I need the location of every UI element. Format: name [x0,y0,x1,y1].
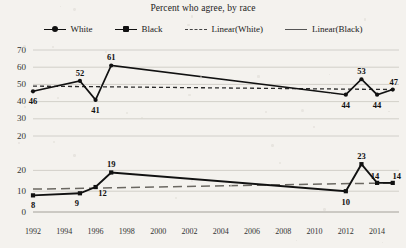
legend-item-white: White [44,24,93,34]
data-point-label: 47 [384,78,404,87]
scan-speckle [105,51,107,53]
data-point-label: 44 [367,101,387,110]
data-point-label: 12 [93,189,113,198]
data-point-label: 61 [101,53,121,62]
scan-speckle [52,46,54,48]
scan-speckle [191,180,192,181]
square-line-marker-icon [115,25,137,34]
y-axis-tick-label: 20 [4,132,26,141]
x-axis-tick-label: 2004 [207,228,235,236]
scan-speckle [323,208,326,211]
diamond-line-marker-icon [44,25,66,34]
x-axis-tick-label: 2006 [238,228,266,236]
legend-label-linear-black: Linear(Black) [312,24,362,34]
chart-legend: White Black Linear(White) Linear(Black) [0,22,406,36]
data-point-label: 53 [351,67,371,76]
scan-speckle [188,94,191,97]
x-axis-tick-label: 1996 [82,228,110,236]
x-axis-tick-label: 2014 [363,228,391,236]
data-point-label: 8 [23,201,43,210]
data-point-label: 10 [336,198,356,207]
scan-speckle [382,242,383,243]
scan-speckle [60,6,61,7]
scan-speckle [18,142,19,143]
scan-speckle [271,144,274,147]
scan-speckle [73,154,76,157]
scan-speckle [23,45,26,48]
scan-speckle [273,232,274,233]
scan-speckle [191,15,193,17]
legend-item-black: Black [115,24,163,34]
legend-label-linear-white: Linear(White) [212,24,263,34]
x-axis-tick-label: 2010 [301,228,329,236]
x-axis-tick-label: 1994 [50,228,78,236]
data-point-label: 14 [387,172,406,181]
data-point-label: 44 [336,101,356,110]
y-axis-tick-label: 60 [4,63,26,72]
scan-speckle [301,109,304,112]
y-axis-tick-label: 20 [4,166,26,175]
data-point-label: 23 [351,152,371,161]
chart-figure: Percent who agree, by race White Black L… [0,0,406,248]
scan-speckle [296,240,297,241]
x-axis-tick-label: 1992 [19,228,47,236]
panel-white-plot [0,42,406,146]
scan-speckle [364,18,366,20]
data-point-label: 19 [101,160,121,169]
x-axis-tick-label: 2012 [332,228,360,236]
data-point-label: 41 [86,106,106,115]
data-point-label: 46 [23,97,43,106]
scan-speckle [265,111,267,113]
x-axis-tick-label: 1998 [113,228,141,236]
legend-item-linear-black: Linear(Black) [285,24,362,34]
legend-item-linear-white: Linear(White) [185,24,263,34]
scan-speckle [200,76,202,78]
y-axis-tick-label: 10 [4,187,26,196]
scan-speckle [257,75,259,77]
legend-label-black: Black [142,24,163,34]
legend-label-white: White [71,24,93,34]
panel-white: 2030405060704652416144534447 [0,42,406,146]
chart-title: Percent who agree, by race [0,3,406,13]
scan-speckle [24,106,25,107]
scan-speckle [73,8,76,11]
panel-black: 0102089121910231414 [0,152,406,224]
long-dashed-line-sample-icon [285,25,307,34]
data-point-label: 14 [365,172,385,181]
y-axis-tick-label: 30 [4,114,26,123]
y-axis-tick-label: 50 [4,80,26,89]
data-point-label: 9 [67,199,87,208]
panel-black-plot [0,152,406,224]
scan-speckle [313,126,315,128]
x-axis-tick-label: 2000 [144,228,172,236]
x-axis-tick-label: 2002 [175,228,203,236]
data-point-label: 52 [70,69,90,78]
